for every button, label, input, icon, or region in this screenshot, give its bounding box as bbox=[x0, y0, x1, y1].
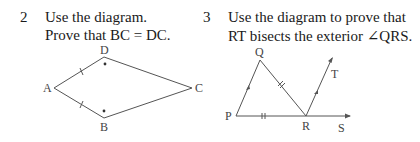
label-d: D bbox=[100, 43, 109, 57]
arrowhead-s bbox=[345, 114, 351, 119]
label-c: C bbox=[195, 81, 203, 95]
label-r: R bbox=[302, 119, 310, 133]
diagrams: D A C B Q P R S T bbox=[0, 0, 420, 142]
kite-diagram bbox=[54, 57, 192, 118]
label-q: Q bbox=[255, 45, 264, 59]
kite-shape bbox=[54, 57, 192, 118]
angle-dot-d bbox=[104, 63, 107, 66]
ray-rt bbox=[306, 58, 332, 116]
tick-mark-ab bbox=[80, 101, 83, 108]
label-t: T bbox=[331, 67, 339, 81]
label-s: S bbox=[338, 121, 345, 135]
segment-qr bbox=[260, 60, 306, 116]
label-b: B bbox=[100, 120, 108, 134]
label-p: P bbox=[225, 109, 232, 123]
arrowhead-t bbox=[328, 57, 333, 63]
label-a: A bbox=[43, 81, 52, 95]
angle-dot-b bbox=[103, 110, 106, 113]
